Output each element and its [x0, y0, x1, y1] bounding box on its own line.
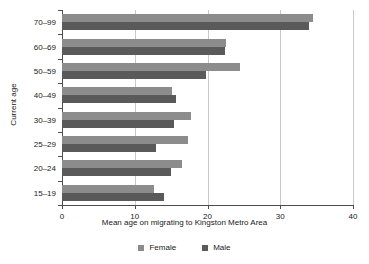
x-axis-tick-label: 20	[203, 212, 212, 221]
y-axis-tick-label: 20–24	[34, 164, 56, 173]
bar-male-60-69	[62, 47, 225, 55]
bar-female-40-49	[62, 87, 172, 95]
legend-label: Female	[149, 243, 176, 252]
y-axis-tick-label: 25–29	[34, 140, 56, 149]
y-axis-tick	[58, 108, 62, 109]
bar-female-70-99	[62, 14, 313, 22]
bar-chart: Current age Mean age on migrating to Kin…	[0, 0, 369, 264]
y-axis-tick	[58, 205, 62, 206]
bar-male-25-29	[62, 144, 156, 152]
bar-female-20-24	[62, 160, 182, 168]
plot-area: 01020304070–9960–6950–5940–4930–3925–292…	[62, 10, 353, 205]
y-axis-tick	[58, 156, 62, 157]
x-axis-tick	[353, 205, 354, 209]
bar-female-15-19	[62, 185, 154, 193]
square-swatch-icon	[138, 245, 144, 251]
y-axis-tick-label: 70–99	[34, 18, 56, 27]
x-axis-tick	[208, 205, 209, 209]
y-axis-tick-label: 50–59	[34, 66, 56, 75]
legend-entry-male: Male	[202, 243, 230, 252]
y-axis-tick	[58, 132, 62, 133]
y-axis-tick-label: 40–49	[34, 91, 56, 100]
legend-entry-female: Female	[138, 243, 176, 252]
bar-female-50-59	[62, 63, 240, 71]
x-axis-title: Mean age on migrating to Kingston Metro …	[0, 218, 369, 227]
bar-male-30-39	[62, 120, 174, 128]
x-axis-tick	[280, 205, 281, 209]
y-axis-tick	[58, 59, 62, 60]
y-axis-tick	[58, 10, 62, 11]
y-axis-tick	[58, 181, 62, 182]
bar-male-15-19	[62, 193, 164, 201]
square-swatch-icon	[202, 245, 208, 251]
bar-male-70-99	[62, 22, 309, 30]
y-axis-tick	[58, 83, 62, 84]
bar-female-30-39	[62, 112, 191, 120]
x-axis-tick-label: 10	[130, 212, 139, 221]
bar-male-40-49	[62, 95, 176, 103]
y-axis-tick-label: 15–19	[34, 188, 56, 197]
y-axis-title: Current age	[9, 45, 18, 165]
bar-male-20-24	[62, 168, 171, 176]
x-axis-tick-label: 0	[60, 212, 64, 221]
y-axis-tick-label: 60–69	[34, 42, 56, 51]
gridline	[280, 10, 281, 205]
bar-male-50-59	[62, 71, 206, 79]
y-axis-tick	[58, 34, 62, 35]
x-axis-tick-label: 30	[276, 212, 285, 221]
x-axis-tick	[135, 205, 136, 209]
y-axis-tick-label: 30–39	[34, 115, 56, 124]
legend-label: Male	[213, 243, 230, 252]
gridline	[353, 10, 354, 205]
x-axis-tick-label: 40	[349, 212, 358, 221]
chart-legend: FemaleMale	[0, 243, 369, 252]
x-axis-tick	[62, 205, 63, 209]
bar-female-25-29	[62, 136, 188, 144]
bar-female-60-69	[62, 39, 226, 47]
